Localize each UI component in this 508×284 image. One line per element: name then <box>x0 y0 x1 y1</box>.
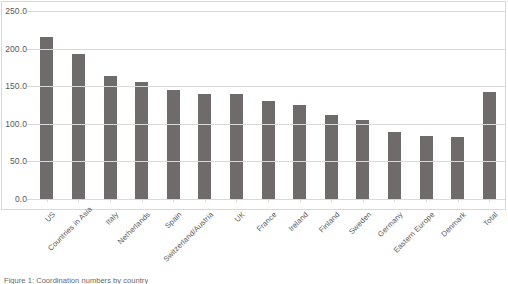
bar <box>388 132 401 199</box>
x-axis-tick-mark <box>78 199 79 202</box>
bar <box>483 92 496 199</box>
bar <box>72 54 85 199</box>
bar <box>198 94 211 199</box>
figure-caption: Figure 1: Coordination numbers by countr… <box>4 276 148 284</box>
y-axis-tick-labels: 250.0200.0150.0100.050.00.0 <box>0 0 30 210</box>
plot-area <box>31 0 505 199</box>
bar <box>167 90 180 199</box>
bar <box>135 82 148 199</box>
x-axis-tick-mark <box>300 199 301 202</box>
x-axis-tick-mark <box>489 199 490 202</box>
x-axis-tick-mark <box>205 199 206 202</box>
y-axis-tick-mark <box>27 11 31 12</box>
x-axis-tick-mark <box>110 199 111 202</box>
x-axis-tick-labels: USCountries in AsiaItalyNetherlandsSpain… <box>31 210 505 272</box>
gridline <box>31 49 505 50</box>
gridline <box>31 86 505 87</box>
gridline <box>31 161 505 162</box>
bar <box>230 94 243 199</box>
bar <box>262 101 275 200</box>
x-axis-tick-mark <box>142 199 143 202</box>
bar <box>40 37 53 199</box>
bar-chart: 250.0200.0150.0100.050.00.0 USCountries … <box>0 0 508 284</box>
y-axis-tick-label: 150.0 <box>5 82 27 91</box>
x-axis-tick-mark <box>458 199 459 202</box>
x-axis-tick-mark <box>268 199 269 202</box>
y-axis-tick-mark <box>27 86 31 87</box>
bar <box>325 115 338 199</box>
x-axis-tick-mark <box>47 199 48 202</box>
y-axis-tick-mark <box>27 161 31 162</box>
x-axis-tick-mark <box>426 199 427 202</box>
gridline <box>31 11 505 12</box>
x-axis-tick-mark <box>363 199 364 202</box>
bar <box>293 105 306 199</box>
y-axis-tick-label: 200.0 <box>5 44 27 53</box>
bar <box>451 137 464 199</box>
x-axis-tick-label: US <box>37 210 57 230</box>
x-axis-tick-mark <box>236 199 237 202</box>
x-axis-tick-mark <box>394 199 395 202</box>
y-axis-tick-label: 250.0 <box>5 7 27 16</box>
gridline <box>31 124 505 125</box>
bar <box>420 136 433 199</box>
x-axis-tick-mark <box>331 199 332 202</box>
y-axis-tick-label: 100.0 <box>5 119 27 128</box>
x-axis-tick-mark <box>173 199 174 202</box>
y-axis-tick-mark <box>27 49 31 50</box>
x-axis-tick-label: Italy <box>55 210 120 275</box>
y-axis-tick-label: 0.0 <box>15 195 27 204</box>
bar <box>104 76 117 199</box>
y-axis-tick-mark <box>27 124 31 125</box>
y-axis-tick-label: 50.0 <box>10 157 27 166</box>
bar <box>356 120 369 199</box>
y-axis-tick-mark <box>27 199 31 200</box>
